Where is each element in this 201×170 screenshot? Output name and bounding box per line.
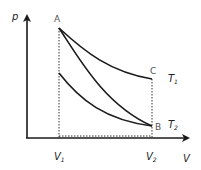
y-axis-label: p <box>11 11 18 22</box>
point-b-label: B <box>155 122 161 132</box>
point-c-label: C <box>150 66 156 76</box>
x-axis-label: V <box>183 153 191 164</box>
t2-label: T2 <box>168 119 178 131</box>
point-a-label: A <box>54 14 61 24</box>
isotherm-t1-curve-ac <box>59 28 152 79</box>
t1-label: T1 <box>168 73 178 85</box>
pv-diagram: p V A C B T1 T2 V1 V2 <box>0 0 201 170</box>
v2-tick-label: V2 <box>146 151 157 163</box>
adiabat-curve-ab <box>59 28 152 126</box>
v1-tick-label: V1 <box>54 151 65 163</box>
